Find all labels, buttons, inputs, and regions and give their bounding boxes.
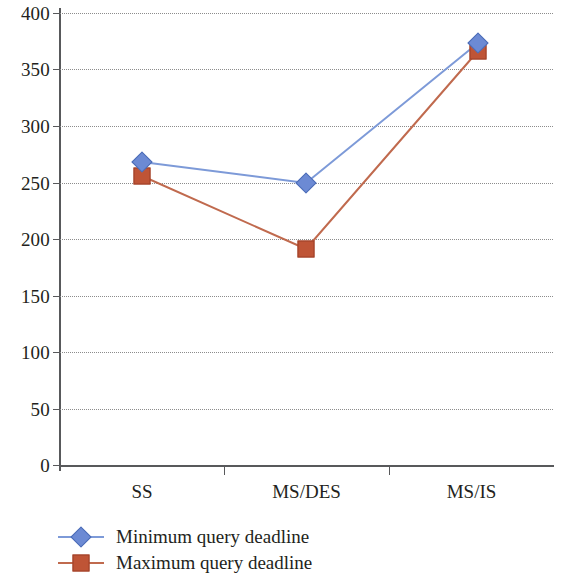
legend-item-maximum: Maximum query deadline (58, 550, 458, 576)
series-lines (0, 0, 561, 500)
x-tick-label-msis: MS/IS (389, 481, 554, 503)
x-tick-label-ss: SS (60, 481, 224, 503)
legend-item-minimum: Minimum query deadline (58, 524, 458, 550)
legend-label-maximum: Maximum query deadline (116, 552, 312, 574)
data-point-maximum-msdes (298, 241, 315, 258)
series-line-minimum (142, 43, 478, 183)
x-tick-mark-1 (224, 466, 225, 475)
legend-label-minimum: Minimum query deadline (116, 526, 309, 548)
square-marker-icon (73, 555, 90, 572)
diamond-marker-icon (70, 526, 91, 547)
chart-legend: Minimum query deadline Maximum query dea… (58, 524, 458, 576)
chart-figure: 400 350 300 250 200 150 100 50 0 (0, 0, 561, 580)
legend-marker-minimum (58, 527, 104, 547)
x-tick-label-msdes: MS/DES (224, 481, 389, 503)
series-line-maximum (142, 51, 478, 249)
x-tick-mark-2 (389, 466, 390, 475)
legend-marker-maximum (58, 553, 104, 573)
